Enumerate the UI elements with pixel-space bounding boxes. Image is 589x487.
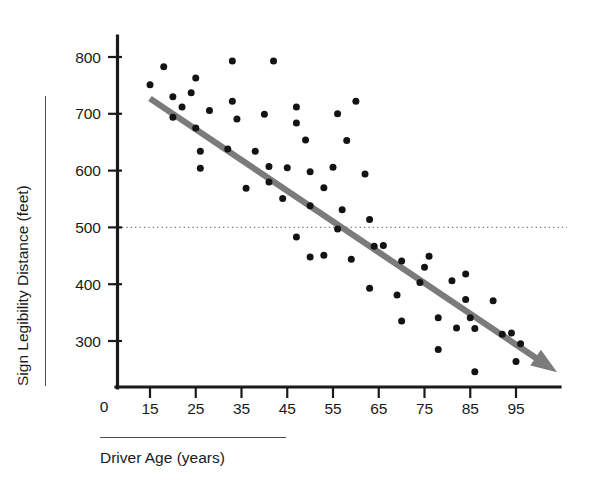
data-point bbox=[462, 296, 469, 303]
x-tick-label: 65 bbox=[370, 400, 387, 417]
y-tick-label: 300 bbox=[75, 333, 101, 350]
data-point bbox=[416, 279, 423, 286]
data-point bbox=[513, 358, 520, 365]
y-tick-label: 500 bbox=[75, 219, 101, 236]
data-point bbox=[371, 243, 378, 250]
origin-zero-label: 0 bbox=[100, 398, 109, 415]
data-point bbox=[192, 75, 199, 82]
data-point bbox=[343, 137, 350, 144]
y-axis-title: Sign Legibility Distance (feet) bbox=[12, 96, 38, 386]
data-point bbox=[192, 125, 199, 132]
data-point bbox=[243, 185, 250, 192]
data-point bbox=[197, 148, 204, 155]
x-tick-label: 85 bbox=[462, 400, 479, 417]
data-point bbox=[206, 107, 213, 114]
trend-line-group bbox=[150, 98, 557, 372]
x-tick-label: 75 bbox=[416, 400, 433, 417]
data-point bbox=[421, 264, 428, 271]
data-point bbox=[302, 136, 309, 143]
y-tick-label: 600 bbox=[75, 162, 101, 179]
data-point bbox=[270, 57, 277, 64]
data-point bbox=[339, 206, 346, 213]
data-point bbox=[398, 318, 405, 325]
y-axis-title-rule bbox=[45, 96, 46, 386]
data-point bbox=[362, 171, 369, 178]
data-point bbox=[366, 285, 373, 292]
data-point bbox=[508, 330, 515, 337]
data-point bbox=[307, 168, 314, 175]
data-point bbox=[435, 314, 442, 321]
data-point bbox=[320, 184, 327, 191]
x-axis-title: Driver Age (years) bbox=[100, 449, 360, 467]
data-point bbox=[490, 297, 497, 304]
data-point bbox=[320, 252, 327, 259]
x-tick-label: 15 bbox=[141, 400, 158, 417]
data-point bbox=[499, 331, 506, 338]
x-axis-title-block: Driver Age (years) bbox=[100, 437, 360, 467]
data-points-group bbox=[147, 57, 525, 375]
data-point bbox=[517, 340, 524, 347]
data-point bbox=[197, 165, 204, 172]
x-tick-label: 45 bbox=[279, 400, 296, 417]
y-tick-label: 400 bbox=[75, 276, 101, 293]
data-point bbox=[307, 253, 314, 260]
x-tick-label: 25 bbox=[187, 400, 204, 417]
data-point bbox=[471, 368, 478, 375]
data-point bbox=[366, 216, 373, 223]
y-tick-label: 700 bbox=[75, 105, 101, 122]
data-point bbox=[252, 148, 259, 155]
data-point bbox=[229, 98, 236, 105]
y-tick-label: 800 bbox=[75, 49, 101, 66]
data-point bbox=[261, 111, 268, 118]
data-point bbox=[334, 226, 341, 233]
x-tick-label: 55 bbox=[324, 400, 341, 417]
data-point bbox=[179, 103, 186, 110]
x-tick-label: 95 bbox=[507, 400, 524, 417]
x-tick-label: 35 bbox=[233, 400, 250, 417]
data-point bbox=[471, 325, 478, 332]
data-point bbox=[233, 115, 240, 122]
y-axis-title-block: Sign Legibility Distance (feet) bbox=[12, 96, 46, 386]
data-point bbox=[229, 57, 236, 64]
data-point bbox=[265, 178, 272, 185]
x-axis-title-rule bbox=[100, 437, 286, 438]
data-point bbox=[467, 314, 474, 321]
data-point bbox=[279, 195, 286, 202]
data-point bbox=[348, 256, 355, 263]
data-point bbox=[169, 93, 176, 100]
data-point bbox=[188, 89, 195, 96]
data-point bbox=[398, 257, 405, 264]
data-point bbox=[224, 146, 231, 153]
data-point bbox=[394, 291, 401, 298]
data-point bbox=[293, 103, 300, 110]
data-point bbox=[147, 81, 154, 88]
data-point bbox=[453, 324, 460, 331]
data-point bbox=[435, 346, 442, 353]
data-point bbox=[380, 242, 387, 249]
data-point bbox=[330, 164, 337, 171]
plot-canvas: 300400500600700800152535455565758595 0 bbox=[0, 0, 589, 487]
data-point bbox=[352, 98, 359, 105]
scatter-plot-figure: 300400500600700800152535455565758595 0 S… bbox=[0, 0, 589, 487]
data-point bbox=[293, 119, 300, 126]
data-point bbox=[462, 270, 469, 277]
data-point bbox=[426, 253, 433, 260]
data-point bbox=[448, 277, 455, 284]
data-point bbox=[307, 202, 314, 209]
tick-labels-group: 300400500600700800152535455565758595 bbox=[75, 49, 525, 418]
data-point bbox=[293, 234, 300, 241]
data-point bbox=[334, 110, 341, 117]
data-point bbox=[160, 63, 167, 70]
data-point bbox=[265, 163, 272, 170]
data-point bbox=[284, 164, 291, 171]
data-point bbox=[169, 114, 176, 121]
